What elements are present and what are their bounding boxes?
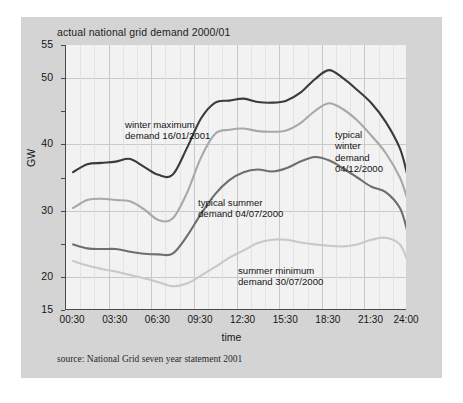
- series-annotation: winter maximum demand 16/01/2001: [125, 119, 210, 142]
- y-axis-tick-label: 55: [13, 38, 53, 50]
- y-axis-tick-mark: [61, 244, 65, 245]
- y-axis-tick-mark: [61, 211, 65, 212]
- series-annotation: typical summer demand 04/07/2000: [198, 197, 283, 220]
- y-axis-tick-label: 30: [13, 204, 53, 216]
- y-axis-tick-mark: [61, 310, 65, 311]
- y-axis-tick-mark: [61, 144, 65, 145]
- plot-area: [65, 45, 406, 310]
- source-note: source: National Grid seven year stateme…: [57, 354, 242, 364]
- y-axis-tick-mark: [61, 277, 65, 278]
- y-axis-tick-mark: [61, 78, 65, 79]
- x-axis-label: time: [21, 331, 442, 343]
- y-axis-tick-label: 50: [13, 71, 53, 83]
- figure-panel: actual national grid demand 2000/01 GW t…: [21, 17, 442, 378]
- y-axis-tick-label: 20: [13, 270, 53, 282]
- y-axis-label: GW: [25, 149, 37, 167]
- y-axis-tick-label: 40: [13, 137, 53, 149]
- y-axis-tick-mark: [61, 45, 65, 46]
- y-axis-tick-mark: [61, 178, 65, 179]
- series-annotation: summer minimum demand 30/07/2000: [238, 265, 323, 288]
- series-annotation: typical winter demand 04/12/2000: [335, 129, 383, 175]
- chart-title: actual national grid demand 2000/01: [57, 26, 230, 38]
- x-axis-tick-label: 24:00: [376, 314, 436, 325]
- series-canvas: [66, 45, 406, 310]
- y-axis-tick-mark: [61, 111, 65, 112]
